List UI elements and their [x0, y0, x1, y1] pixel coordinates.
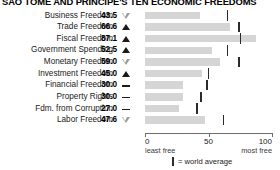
world-average-tick [240, 33, 242, 43]
axis-tick-label: 50 [204, 137, 213, 146]
value-bar [145, 70, 202, 78]
chart-row: Property Rights30.0 [0, 91, 280, 103]
trend-flat-icon [121, 81, 130, 90]
chart-row: Investment Freedom45.0 [0, 68, 280, 80]
chart-row: Fdm. from Corruption27.0 [0, 103, 280, 115]
world-average-tick [227, 45, 229, 55]
row-plot [145, 80, 272, 92]
value-bar [145, 12, 200, 20]
value-bar [145, 23, 230, 31]
row-value: 45.0 [100, 69, 117, 79]
axis-label-least-free: least free [145, 146, 175, 155]
row-plot [145, 103, 272, 115]
world-average-tick [196, 103, 198, 113]
value-bar [145, 47, 212, 55]
chart-row: Monetary Freedom59.0 [0, 57, 280, 69]
row-plot [145, 115, 272, 127]
row-plot [145, 45, 272, 57]
row-plot [145, 57, 272, 69]
world-average-tick [227, 10, 229, 20]
axis-label-most-free: most free [241, 146, 272, 155]
trend-up-icon [121, 69, 130, 78]
chart-row: Labor Freedom47.6 [0, 115, 280, 127]
axis-tick-label: 0 [145, 137, 149, 146]
world-average-tick [238, 22, 240, 32]
value-bar [145, 105, 179, 113]
trend-down-icon [121, 58, 130, 67]
row-value: 30.0 [100, 80, 117, 90]
row-value: 43.5 [100, 11, 117, 21]
axis-tick-label: 100 [259, 137, 272, 146]
value-bar [145, 93, 183, 101]
row-plot [145, 91, 272, 103]
world-average-marker-icon [172, 157, 174, 166]
axis-tick [145, 133, 146, 137]
world-average-tick [206, 80, 208, 90]
row-plot [145, 68, 272, 80]
trend-up-icon [121, 46, 130, 55]
chart-row: Fiscal Freedom87.1 [0, 33, 280, 45]
axis-tick [209, 133, 210, 137]
trend-up-icon [121, 34, 130, 43]
world-average-tick [223, 115, 225, 125]
chart-row: Trade Freedom66.6 [0, 22, 280, 34]
row-plot [145, 10, 272, 22]
trend-up-icon [121, 23, 130, 32]
trend-down-icon [121, 11, 130, 20]
chart-row: Government Spending52.5 [0, 45, 280, 57]
row-value: 30.0 [100, 92, 117, 102]
chart-rows: Business Freedom43.5Trade Freedom66.6Fis… [0, 10, 280, 126]
world-average-tick [200, 92, 202, 102]
legend-label-world-average: = world average [178, 157, 232, 166]
chart-row: Financial Freedom30.0 [0, 80, 280, 92]
value-bar [145, 116, 205, 124]
trend-flat-icon [121, 104, 130, 113]
row-value: 87.1 [100, 34, 117, 44]
trend-down-icon [121, 116, 130, 125]
world-average-tick [208, 68, 210, 78]
value-bar [145, 58, 220, 66]
value-bar [145, 81, 183, 89]
chart-title: SAO TOME AND PRINCIPE'S TEN ECONOMIC FRE… [2, 0, 280, 7]
economic-freedoms-chart: SAO TOME AND PRINCIPE'S TEN ECONOMIC FRE… [0, 0, 280, 170]
row-value: 59.0 [100, 57, 117, 67]
row-plot [145, 33, 272, 45]
trend-flat-icon [121, 92, 130, 101]
row-value: 66.6 [100, 22, 117, 32]
axis-tick [272, 133, 273, 137]
row-plot [145, 22, 272, 34]
row-value: 47.6 [100, 115, 117, 125]
row-value: 27.0 [100, 104, 117, 114]
chart-row: Business Freedom43.5 [0, 10, 280, 22]
world-average-tick [238, 57, 240, 67]
row-value: 52.5 [100, 45, 117, 55]
